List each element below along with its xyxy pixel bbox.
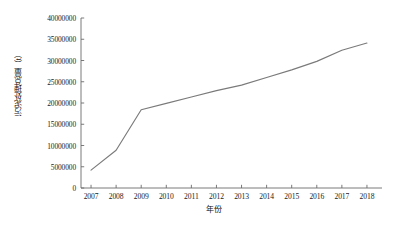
plot-area bbox=[0, 0, 403, 236]
x-axis-title-text: 年份 bbox=[206, 205, 222, 214]
axis-lines bbox=[81, 18, 382, 188]
sludge-treatment-line-chart: 污泥处理总量（t） 050000001000000015000000200000… bbox=[0, 0, 403, 236]
data-series-line bbox=[91, 43, 367, 170]
axis-tick-marks bbox=[81, 18, 367, 188]
x-axis-title: 年份 bbox=[0, 203, 403, 214]
